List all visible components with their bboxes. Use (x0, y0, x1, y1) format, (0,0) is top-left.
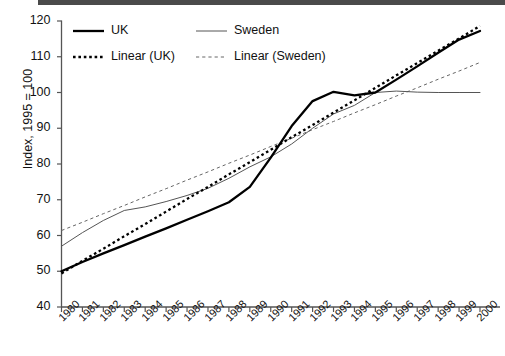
series-layer (62, 26, 481, 273)
y-tick-label: 100 (17, 85, 51, 99)
axes-layer (57, 21, 500, 313)
y-tick-label: 40 (17, 299, 51, 313)
legend-label-sweden: Sweden (234, 23, 279, 37)
legend-label-linear-uk: Linear (UK) (111, 49, 175, 63)
series-line-linear-uk (62, 26, 481, 273)
y-tick-label: 110 (17, 49, 51, 63)
y-tick-label: 120 (17, 13, 51, 27)
y-tick-label: 70 (17, 192, 51, 206)
y-tick-label: 90 (17, 120, 51, 134)
legend-label-linear-sweden: Linear (Sweden) (234, 49, 326, 63)
y-tick-label: 80 (17, 156, 51, 170)
series-line-sweden (62, 91, 481, 246)
series-line-linear-sweden (62, 62, 481, 230)
y-tick-label: 60 (17, 228, 51, 242)
y-tick-label: 50 (17, 263, 51, 277)
legend-label-uk: UK (111, 23, 128, 37)
chart-figure: Index, 1995 = 100 405060708090100110120 … (0, 0, 505, 356)
series-line-uk (62, 31, 481, 271)
